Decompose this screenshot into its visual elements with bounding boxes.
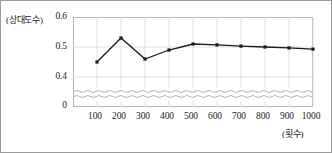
x-tick-label: 1000 (302, 111, 321, 121)
wave-bottom-path (74, 96, 312, 98)
data-point-marker (191, 42, 194, 45)
data-point-marker (215, 43, 218, 46)
data-point-marker (143, 57, 146, 60)
x-tick-label: 900 (280, 111, 294, 121)
x-tick-label: 200 (112, 111, 126, 121)
data-point-marker (311, 48, 314, 51)
data-point-marker (287, 46, 290, 49)
y-axis-title: (상대도수) (6, 13, 43, 26)
x-tick-label: 100 (88, 111, 102, 121)
data-point-marker (167, 48, 170, 51)
data-point-marker (263, 45, 266, 48)
data-point-marker (95, 60, 98, 63)
x-tick-label: 400 (160, 111, 174, 121)
data-series (95, 36, 314, 63)
data-point-marker (119, 36, 122, 39)
y-tick-label: 0.4 (45, 71, 67, 81)
chart-figure: (상대도수) (횟수) 0.60.50.40 10020030040050060… (0, 0, 332, 153)
x-tick-label: 300 (136, 111, 150, 121)
y-tick-label: 0.5 (45, 41, 67, 51)
x-axis-title: (횟수) (282, 127, 303, 140)
series-markers (95, 36, 314, 63)
axis-break-squiggle-icon (74, 87, 312, 101)
x-tick-label: 800 (256, 111, 270, 121)
x-tick-label: 500 (184, 111, 198, 121)
y-tick-label: 0 (45, 100, 67, 110)
data-point-marker (239, 45, 242, 48)
x-tick-label: 600 (208, 111, 222, 121)
series-line (97, 38, 313, 62)
y-tick-label: 0.6 (45, 11, 67, 21)
x-tick-label: 700 (232, 111, 246, 121)
wave-top-path (74, 91, 312, 93)
